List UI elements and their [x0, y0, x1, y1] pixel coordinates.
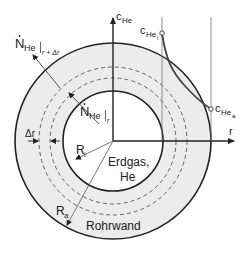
c-he-a-subsub: a	[232, 113, 236, 119]
label-c-he-a: c He a	[215, 102, 236, 119]
label-axis-r: r	[229, 125, 233, 137]
label-flux-outer: N He r + Δr	[15, 35, 60, 56]
label-gas-line1: Erdgas,	[108, 155, 149, 169]
flux-outer-sub: He	[24, 43, 36, 53]
c-he-i-sub: He	[146, 30, 157, 39]
point-c-he-i	[160, 31, 164, 35]
label-gas-line2: He	[120, 170, 136, 184]
point-c-he-a	[209, 107, 213, 111]
axis-c-sub: He	[122, 16, 133, 25]
flux-inner-dot	[84, 103, 86, 105]
c-he-i-subsub: i	[157, 35, 158, 41]
flux-outer-eval: r + Δr	[42, 49, 60, 56]
label-delta-r: Δr	[25, 128, 36, 139]
ra-sub: a	[64, 211, 69, 220]
label-axis-c: c He	[116, 10, 133, 25]
diagram-canvas: N He r + Δr N He r c He r c He i c He a …	[0, 0, 248, 254]
label-c-he-i: c He i	[140, 24, 158, 41]
flux-outer-dot	[19, 35, 21, 37]
flux-outer-symbol: N	[15, 36, 24, 51]
flux-inner-symbol: N	[80, 104, 89, 119]
label-pipe-wall: Rohrwand	[86, 219, 141, 233]
flux-inner-sub: He	[89, 111, 101, 121]
c-he-a-sub: He	[221, 108, 232, 117]
label-radius-inner: R i	[76, 143, 86, 158]
